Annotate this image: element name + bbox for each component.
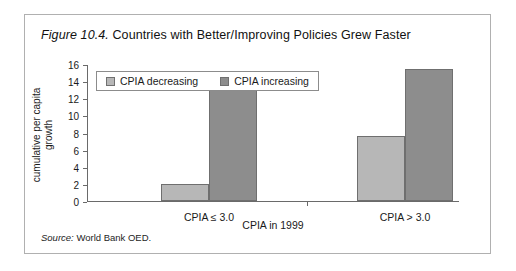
x-tick-mark [307, 202, 308, 206]
legend-item-increasing: CPIA increasing [220, 75, 309, 87]
y-tick-label: 14 [57, 77, 79, 88]
bar-increasing [209, 83, 257, 201]
figure-title-text: Countries with Better/Improving Policies… [109, 28, 411, 42]
y-tick-label: 8 [57, 128, 79, 139]
y-tick-label: 4 [57, 162, 79, 173]
y-tick-mark [83, 134, 87, 135]
y-tick-label: 16 [57, 60, 79, 71]
y-tick-mark [83, 202, 87, 203]
x-axis-line [87, 201, 459, 202]
bar-chart: cumulative per capita growth 02468101214… [25, 47, 492, 233]
y-tick-mark [83, 185, 87, 186]
y-axis-line [87, 65, 88, 202]
legend-label-decreasing: CPIA decreasing [120, 75, 198, 87]
y-tick-mark [83, 151, 87, 152]
legend-label-increasing: CPIA increasing [234, 75, 309, 87]
y-tick-mark [83, 168, 87, 169]
y-tick-label: 0 [57, 197, 79, 208]
bar-decreasing [357, 136, 405, 201]
source-text: World Bank OED. [74, 232, 151, 243]
bar-decreasing [161, 184, 209, 201]
y-tick-label: 2 [57, 179, 79, 190]
legend-swatch-decreasing [106, 77, 115, 86]
figure-title: Figure 10.4. Countries with Better/Impro… [41, 28, 411, 42]
y-tick-label: 12 [57, 94, 79, 105]
figure-panel: Figure 10.4. Countries with Better/Impro… [24, 14, 491, 254]
y-tick-label: 10 [57, 111, 79, 122]
legend-swatch-increasing [220, 77, 229, 86]
source-label: Source: [41, 232, 74, 243]
chart-legend: CPIA decreasing CPIA increasing [96, 71, 319, 91]
bar-increasing [405, 69, 453, 201]
legend-item-decreasing: CPIA decreasing [106, 75, 198, 87]
y-axis-label: cumulative per capita growth [31, 73, 55, 197]
y-tick-mark [83, 99, 87, 100]
x-axis-label: CPIA in 1999 [87, 219, 459, 231]
y-tick-mark [83, 116, 87, 117]
y-tick-label: 6 [57, 145, 79, 156]
y-tick-mark [83, 65, 87, 66]
source-note: Source: World Bank OED. [41, 232, 151, 243]
figure-number: Figure 10.4. [41, 28, 109, 42]
y-tick-mark [83, 82, 87, 83]
